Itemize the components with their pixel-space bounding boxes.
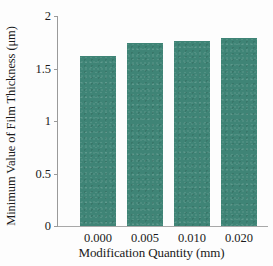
y-tick-mark — [54, 16, 58, 17]
bar — [174, 41, 210, 226]
y-tick-label: 1 — [45, 115, 51, 128]
y-tick-mark — [54, 69, 58, 70]
x-axis-title: Modification Quantity (mm) — [30, 245, 273, 261]
y-axis-title: Minimum Value of Film Thickness (μm) — [2, 8, 20, 244]
y-tick-label: 1.5 — [35, 62, 51, 75]
y-tick-label: 2 — [45, 10, 51, 23]
bar-chart-figure: Minimum Value of Film Thickness (μm) 00.… — [0, 0, 273, 266]
bar — [80, 56, 116, 226]
x-axis-line — [57, 226, 268, 227]
bar — [221, 38, 257, 226]
y-tick-mark — [54, 174, 58, 175]
y-tick-label: 0.5 — [35, 167, 51, 180]
plot-area: 00.511.52 0.0000.0050.0100.020 — [57, 16, 268, 227]
x-tick-label: 0.020 — [209, 232, 269, 245]
bar — [127, 43, 163, 226]
y-tick-label: 0 — [45, 220, 51, 233]
y-tick-mark — [54, 226, 58, 227]
y-tick-mark — [54, 121, 58, 122]
